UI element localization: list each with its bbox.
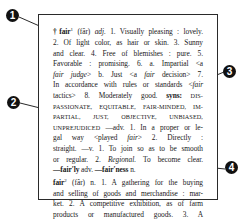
part-of-speech: adj. bbox=[95, 27, 106, 36]
entry-line-12: straight. —v. 1. To join so as to be smo… bbox=[53, 144, 203, 155]
homograph-headword: fair bbox=[53, 178, 64, 187]
callout-2: 2 bbox=[7, 96, 20, 109]
synonym-unprejudiced: UNPREJUDICED bbox=[53, 124, 100, 131]
entry-line-16: and selling of goods and merchandise : m… bbox=[53, 189, 203, 200]
entry-line-7: tactics> 8. Moderately good. syns: DIS- bbox=[53, 91, 203, 102]
entry-line-5: fair judge> b. Just <a fair decision> 7. bbox=[53, 70, 203, 81]
callout-1: 1 bbox=[6, 9, 19, 22]
callout-3: 3 bbox=[223, 65, 236, 78]
entry-line-8: PASSIONATE, EQUITABLE, FAIR-MINDED, IM- bbox=[53, 102, 203, 113]
headword: †fair bbox=[53, 27, 71, 36]
entry-line-1: †fair1 (fâr) adj. 1. Visually pleasing :… bbox=[53, 25, 203, 38]
entry-line-18: products or manufactured goods. 3. A bbox=[53, 210, 203, 219]
entry-line-13: or regular. 2. Regional. To become clear… bbox=[53, 155, 203, 166]
dictionary-entry: †fair1 (fâr) adj. 1. Visually pleasing :… bbox=[53, 25, 203, 219]
example-phrase: fair bbox=[193, 80, 203, 89]
entry-line-14: —fair′ly adv. —fair′ness n. bbox=[53, 165, 203, 176]
entry-line-9: PARTIAL, JUST, OBJECTIVE, UNBIASED, bbox=[53, 112, 203, 123]
entry-line-17: ket. 2. A competitive exhibition, as of … bbox=[53, 199, 203, 210]
entry-line-10: UNPREJUDICED —adv. 1. In a proper or le- bbox=[53, 123, 203, 134]
entry-line-11: gal way <played fair> 2. Directly : bbox=[53, 133, 203, 144]
entry-line-4: Favorable : promising. 6. a. Impartial <… bbox=[53, 59, 203, 70]
entry-line-15: fair2 (fâr) n. 1. A gathering for the bu… bbox=[53, 176, 203, 189]
entry-line-6: In accordance with rules or standards <f… bbox=[53, 80, 203, 91]
entry-line-2: 2. Of light color, as hair or skin. 3. S… bbox=[53, 38, 203, 49]
synonyms-label: syns: bbox=[166, 91, 182, 100]
callout-4: 4 bbox=[225, 161, 238, 174]
entry-line-3: and clear. 4. Free of blemishes : pure. … bbox=[53, 49, 203, 60]
dictionary-entry-box: †fair1 (fâr) adj. 1. Visually pleasing :… bbox=[38, 14, 218, 200]
